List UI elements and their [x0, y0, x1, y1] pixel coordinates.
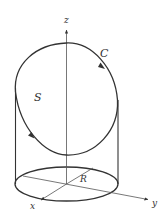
radius-label: R [79, 174, 87, 184]
cylinder-surface-diagram: z x y R C S [0, 0, 167, 218]
x-axis-label: x [30, 201, 35, 211]
surface-s-label: S [34, 91, 42, 104]
curve-c-label: C [100, 47, 109, 60]
y-axis-label: y [151, 198, 158, 208]
z-axis-label: z [63, 15, 69, 25]
x-axis [41, 184, 67, 200]
